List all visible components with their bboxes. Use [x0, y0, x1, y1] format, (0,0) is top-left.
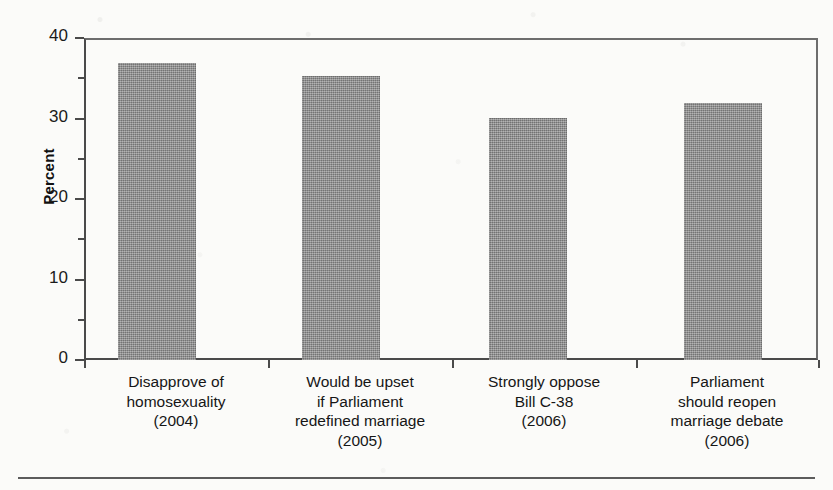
x-axis-label-1: Would be upset if Parliament redefined m…	[261, 372, 459, 450]
x-axis-label-3-line-2: marriage debate	[633, 411, 821, 431]
x-axis-label-0: Disapprove of homosexuality (2004)	[84, 372, 268, 431]
x-axis-label-2: Strongly oppose Bill C-38 (2006)	[452, 372, 636, 431]
bar-parliament-reopen-marriage-debate	[684, 103, 762, 360]
bar-chart-figure: Percent 40 30 20 10 0 Disapprove of	[0, 0, 833, 490]
x-axis-label-3-line-1: should reopen	[633, 392, 821, 412]
x-axis-label-1-line-3: (2005)	[261, 431, 459, 451]
x-axis-label-3: Parliament should reopen marriage debate…	[633, 372, 821, 450]
bar-strongly-oppose-bill-c38	[489, 118, 567, 360]
x-axis-label-0-line-1: homosexuality	[84, 392, 268, 412]
x-tick-1	[268, 360, 270, 368]
x-tick-4	[818, 360, 820, 368]
x-axis-label-0-line-2: (2004)	[84, 411, 268, 431]
x-axis-label-2-line-1: Bill C-38	[452, 392, 636, 412]
x-axis-label-2-line-2: (2006)	[452, 411, 636, 431]
x-axis-label-1-line-0: Would be upset	[261, 372, 459, 392]
x-tick-2	[452, 360, 454, 368]
x-axis-label-3-line-3: (2006)	[633, 431, 821, 451]
x-axis-label-2-line-0: Strongly oppose	[452, 372, 636, 392]
x-axis-label-1-line-2: redefined marriage	[261, 411, 459, 431]
x-axis-label-3-line-0: Parliament	[633, 372, 821, 392]
x-axis-label-1-line-1: if Parliament	[261, 392, 459, 412]
footer-rule	[18, 477, 815, 479]
x-tick-0	[84, 360, 86, 368]
x-axis-label-0-line-0: Disapprove of	[84, 372, 268, 392]
x-tick-3	[636, 360, 638, 368]
bar-disapprove-of-homosexuality	[118, 63, 196, 360]
bar-would-be-upset-redefined-marriage	[302, 76, 380, 360]
